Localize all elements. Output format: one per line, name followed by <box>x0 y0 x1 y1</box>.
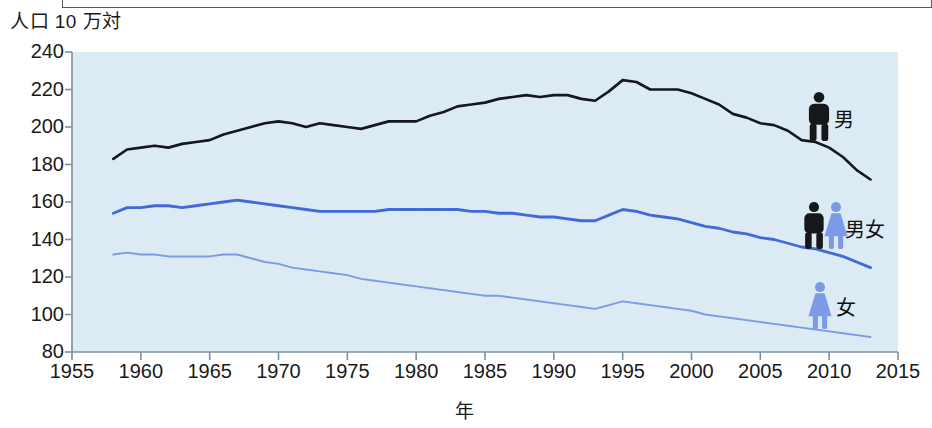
x-tick-label: 1985 <box>450 360 520 383</box>
y-tick-label: 220 <box>12 79 64 99</box>
legend-label-both: 男女 <box>845 214 885 243</box>
x-tick-label: 1975 <box>312 360 382 383</box>
x-tick-label: 1965 <box>175 360 245 383</box>
y-tick-label: 120 <box>12 266 64 286</box>
x-tick-label: 1955 <box>37 360 107 383</box>
x-tick-label: 1990 <box>519 360 589 383</box>
x-tick-label: 2010 <box>794 360 864 383</box>
y-tick-label: 140 <box>12 229 64 249</box>
legend-label-female: 女 <box>836 292 856 321</box>
legend-label-male: 男 <box>834 104 854 133</box>
x-axis-title: 年 <box>455 396 474 423</box>
x-tick-label: 1970 <box>244 360 314 383</box>
x-tick-label: 2005 <box>725 360 795 383</box>
y-tick-label: 160 <box>12 191 64 211</box>
y-tick-label: 200 <box>12 116 64 136</box>
chart-container: 人口 10 万対 24022020018016014012010080 1955… <box>0 0 932 428</box>
y-tick-label: 240 <box>12 41 64 61</box>
x-tick-label: 1995 <box>588 360 658 383</box>
y-tick-label: 100 <box>12 304 64 324</box>
y-tick-label: 180 <box>12 154 64 174</box>
y-tick-label: 80 <box>12 341 64 361</box>
x-tick-label: 1980 <box>381 360 451 383</box>
x-tick-label: 2015 <box>863 360 932 383</box>
x-tick-label: 2000 <box>657 360 727 383</box>
x-tick-label: 1960 <box>106 360 176 383</box>
